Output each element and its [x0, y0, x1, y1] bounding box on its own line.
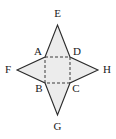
geometric-figure-container: E A D F H B C G [0, 0, 116, 139]
vertex-label-h: H [103, 63, 111, 75]
vertex-label-d: D [73, 45, 81, 57]
vertex-label-c: C [72, 82, 79, 94]
vertex-label-e: E [54, 7, 61, 19]
vertex-label-f: F [5, 63, 11, 75]
vertex-label-b: B [35, 82, 42, 94]
vertex-label-g: G [54, 120, 62, 132]
star-figure-svg: E A D F H B C G [0, 0, 116, 139]
star-outline-shape [17, 25, 98, 115]
vertex-label-a: A [34, 45, 42, 57]
